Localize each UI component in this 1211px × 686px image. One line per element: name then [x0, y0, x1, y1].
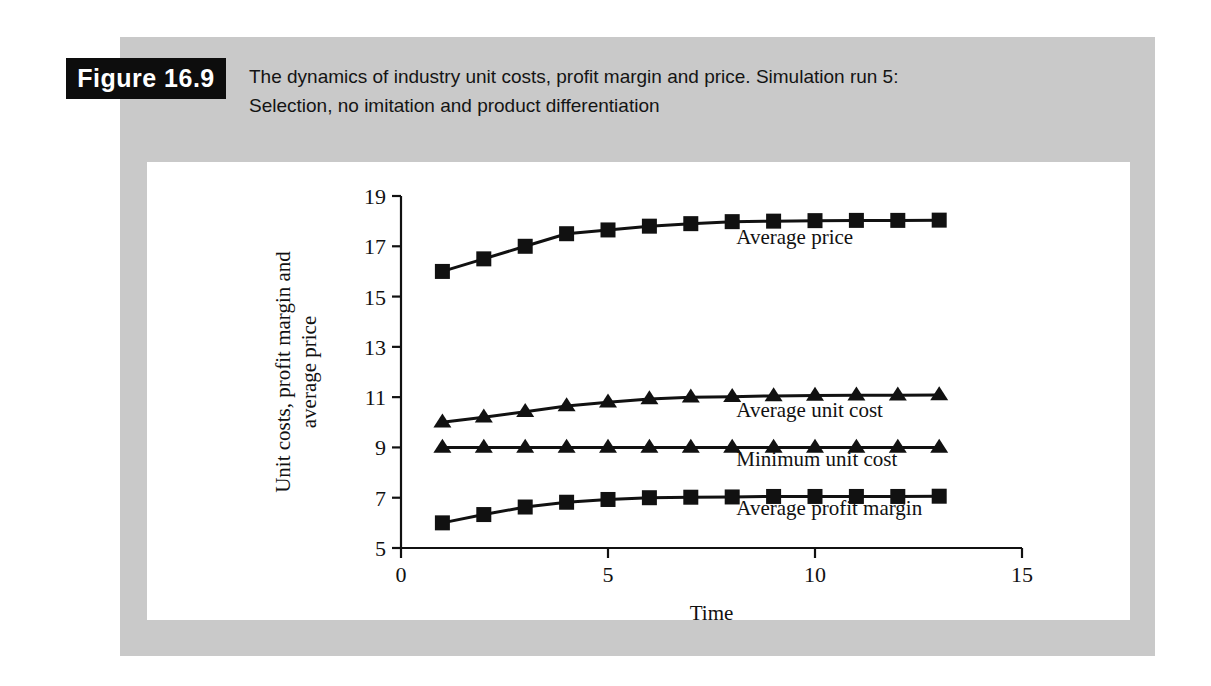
series-marker-square [518, 239, 533, 254]
x-tick-label: 0 [396, 562, 407, 587]
y-tick-label: 11 [365, 385, 386, 410]
figure-caption-line-2: Selection, no imitation and product diff… [249, 91, 989, 120]
y-tick-label: 15 [364, 285, 386, 310]
series-marker-square [559, 495, 574, 510]
figure-number-label: Figure 16.9 [77, 64, 215, 93]
y-tick-label: 5 [375, 536, 386, 561]
y-tick-label: 17 [364, 234, 386, 259]
series-marker-triangle [558, 439, 576, 453]
series-marker-triangle [930, 439, 948, 453]
y-tick-label: 9 [375, 435, 386, 460]
series-marker-square [435, 264, 450, 279]
series-marker-triangle [930, 386, 948, 400]
series-marker-square [890, 213, 905, 228]
figure-number-badge: Figure 16.9 [66, 58, 226, 99]
figure-caption-line-1: The dynamics of industry unit costs, pro… [249, 62, 989, 91]
series-marker-square [435, 515, 450, 530]
series-label-1: Average unit cost [736, 398, 883, 422]
line-chart: 5791113151719051015TimeUnit costs, profi… [147, 162, 1130, 620]
series-marker-square [601, 222, 616, 237]
x-tick-label: 5 [603, 562, 614, 587]
x-tick-label: 15 [1011, 562, 1033, 587]
series-marker-triangle [599, 439, 617, 453]
series-marker-square [642, 490, 657, 505]
series-label-0: Average price [736, 225, 853, 249]
series-marker-triangle [682, 388, 700, 402]
y-tick-label: 7 [375, 486, 386, 511]
series-label-3: Average profit margin [736, 496, 922, 520]
y-axis-title: Unit costs, profit margin andaverage pri… [271, 251, 321, 493]
series-marker-triangle [433, 439, 451, 453]
series-marker-square [683, 216, 698, 231]
chart-plot-card: 5791113151719051015TimeUnit costs, profi… [147, 162, 1130, 620]
series-marker-square [683, 490, 698, 505]
figure-caption: The dynamics of industry unit costs, pro… [249, 62, 989, 120]
series-marker-triangle [475, 439, 493, 453]
x-tick-label: 10 [804, 562, 826, 587]
series-marker-square [476, 251, 491, 266]
series-marker-triangle [516, 439, 534, 453]
series-marker-triangle [682, 439, 700, 453]
y-tick-label: 13 [364, 335, 386, 360]
series-label-2: Minimum unit cost [736, 447, 897, 471]
series-marker-square [642, 219, 657, 234]
series-marker-square [601, 492, 616, 507]
series-marker-square [932, 213, 947, 228]
series-marker-square [932, 489, 947, 504]
x-axis-title: Time [690, 601, 734, 620]
series-marker-square [559, 226, 574, 241]
series-marker-square [518, 500, 533, 515]
y-tick-label: 19 [364, 184, 386, 209]
y-axis-title-line: average price [297, 316, 321, 429]
series-marker-square [476, 507, 491, 522]
series-marker-triangle [640, 439, 658, 453]
y-axis-title-line: Unit costs, profit margin and [271, 251, 295, 493]
series-marker-triangle [889, 386, 907, 400]
